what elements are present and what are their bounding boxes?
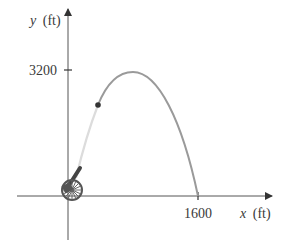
- x-axis-label: x (ft): [239, 206, 271, 222]
- y-axis-unit: (ft): [43, 13, 61, 29]
- cannonball-point: [95, 102, 101, 108]
- trajectory-curve: [98, 72, 198, 196]
- x-axis-unit: (ft): [253, 206, 271, 222]
- x-tick-label: 1600: [184, 206, 212, 221]
- cannon-icon: [62, 168, 82, 200]
- y-axis-var: y: [28, 13, 37, 28]
- y-axis-label: y (ft): [28, 13, 61, 29]
- trajectory-chart: 1600 3200 x (ft) y (ft): [0, 0, 289, 240]
- x-axis-var: x: [239, 206, 247, 221]
- y-tick-label: 3200: [29, 63, 57, 78]
